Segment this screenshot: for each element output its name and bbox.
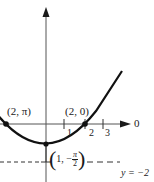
tick-label-2: 2: [89, 128, 94, 138]
point-vertex: [43, 141, 48, 146]
polar-axis-label: 0: [134, 118, 140, 129]
polar-parabola-diagram: (2, π) (2, 0) 1 2 3 0 ( 1, − π 2 ) y = −…: [0, 0, 154, 182]
vertical-axis-arrow-icon: [43, 7, 50, 17]
vertex-label: ( 1, − π 2 ): [49, 148, 85, 170]
point-label-2-pi: (2, π): [7, 106, 31, 117]
polar-axis-arrow-icon: [120, 121, 131, 128]
vertex-label-prefix: 1, −: [56, 154, 72, 164]
point-2-pi: [3, 121, 9, 127]
tick-label-1: 1: [67, 128, 72, 138]
close-paren: ): [78, 148, 85, 170]
open-paren: (: [49, 148, 56, 170]
point-2-0: [82, 121, 88, 127]
point-label-2-0: (2, 0): [65, 106, 89, 117]
tick-label-3: 3: [105, 128, 110, 138]
directrix-label: y = −2: [121, 168, 149, 178]
